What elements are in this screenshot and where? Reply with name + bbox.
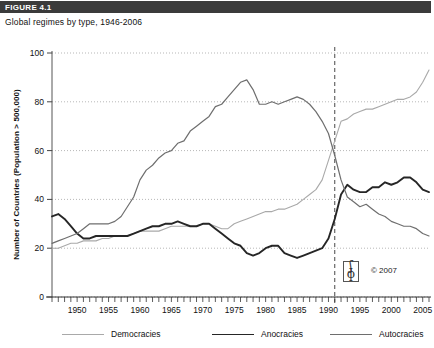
x-tick-label: 1965 <box>154 305 188 315</box>
legend-swatch-icon <box>62 334 104 335</box>
chart-plot-area: 020406080100 195019551960196519701975198… <box>52 53 429 297</box>
legend-item-democracies: Democracies <box>62 328 161 340</box>
series-line-anocracies <box>52 177 429 258</box>
legend-item-autocracies: Autocracies <box>330 328 423 340</box>
x-tick-label: 2000 <box>374 305 408 315</box>
logo-glyph: ʃ ɸ <box>344 260 358 280</box>
x-tick-label: 1955 <box>92 305 126 315</box>
chart-svg <box>52 53 429 297</box>
series-line-democracies <box>52 70 429 248</box>
y-tick-label: 20 <box>22 243 44 253</box>
x-tick-label: 1960 <box>123 305 157 315</box>
y-tick-label: 60 <box>22 146 44 156</box>
figure-root: FIGURE 4.1 Global regimes by type, 1946-… <box>0 0 434 348</box>
y-axis-title: Number of Countries (Population > 500,00… <box>12 75 21 275</box>
legend-label: Democracies <box>111 329 161 339</box>
legend-label: Anocracies <box>261 329 303 339</box>
logo-glyph-lower: ɸ <box>344 268 358 280</box>
series-line-autocracies <box>52 80 429 243</box>
x-tick-label: 1990 <box>311 305 345 315</box>
x-tick-label: 1970 <box>186 305 220 315</box>
legend-label: Autocracies <box>379 329 423 339</box>
x-tick-labels: 1950195519601965197019751980198519901995… <box>52 305 429 317</box>
legend-item-anocracies: Anocracies <box>212 328 303 340</box>
figure-tag-label: FIGURE 4.1 <box>5 3 52 12</box>
x-tick-label: 1985 <box>280 305 314 315</box>
x-tick-label: 1950 <box>60 305 94 315</box>
x-tick-label: 2005 <box>406 305 434 315</box>
x-tick-label: 1980 <box>249 305 283 315</box>
chart-legend: DemocraciesAnocraciesAutocracies <box>52 328 430 342</box>
figure-subtitle: Global regimes by type, 1946-2006 <box>5 17 142 27</box>
y-tick-label: 40 <box>22 194 44 204</box>
x-tick-label: 1975 <box>217 305 251 315</box>
copyright-text: © 2007 <box>371 266 397 275</box>
publisher-logo: ʃ ɸ <box>343 261 359 282</box>
legend-swatch-icon <box>330 334 372 335</box>
x-tick-label: 1995 <box>343 305 377 315</box>
legend-swatch-icon <box>212 334 254 335</box>
y-tick-label: 0 <box>22 292 44 302</box>
figure-tag-bar: FIGURE 4.1 <box>0 1 431 13</box>
y-tick-label: 100 <box>22 48 44 58</box>
y-tick-label: 80 <box>22 97 44 107</box>
